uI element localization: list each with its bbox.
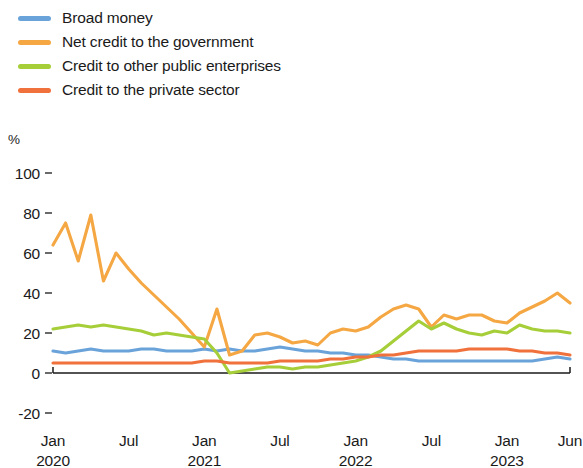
x-axis-tick-label-year: 2022 — [339, 452, 373, 468]
x-axis-tick-label-year: 2023 — [490, 452, 524, 468]
x-axis-tick-label-month: Jan — [495, 432, 519, 449]
x-axis-tick-label-year: 2021 — [187, 452, 221, 468]
x-axis: Jan2020JulJan2021JulJan2022JulJan2023Jun — [36, 367, 582, 468]
x-axis-tick-label-month: Jul — [119, 432, 138, 449]
x-axis-tick-label-month: Jan — [192, 432, 216, 449]
x-axis-tick-label-year: 2020 — [36, 452, 70, 468]
data-series-group — [53, 215, 570, 373]
y-axis-tick-label: 100 — [15, 165, 41, 182]
x-axis-tick-label-month: Jun — [558, 432, 582, 449]
series-line-credit-to-other-public-enterprises — [53, 321, 570, 373]
plot-area: %100806040200-20 Jan2020JulJan2021JulJan… — [0, 0, 583, 468]
y-axis-tick-label: 20 — [23, 325, 40, 342]
x-axis-tick-label-month: Jul — [422, 432, 441, 449]
x-axis-tick-label-month: Jan — [41, 432, 65, 449]
x-axis-tick-label-month: Jan — [343, 432, 367, 449]
y-axis: %100806040200-20 — [8, 132, 52, 422]
y-axis-tick-label: 80 — [23, 205, 40, 222]
y-axis-unit-label: % — [8, 132, 20, 147]
y-axis-tick-label: -20 — [18, 405, 40, 422]
line-chart: Broad money Net credit to the government… — [0, 0, 583, 468]
series-line-net-credit-to-the-government — [53, 215, 570, 355]
y-axis-tick-label: 40 — [23, 285, 40, 302]
y-axis-tick-label: 60 — [23, 245, 40, 262]
x-axis-tick-label-month: Jul — [270, 432, 289, 449]
y-axis-tick-label: 0 — [32, 365, 41, 382]
